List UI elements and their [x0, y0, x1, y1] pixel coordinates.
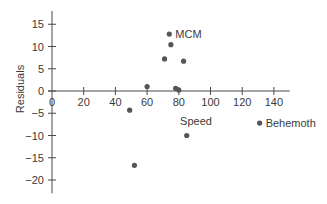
data-points: MCMBehemoth [127, 28, 316, 168]
x-tick-label: 80 [173, 96, 185, 108]
data-point [181, 59, 186, 64]
axes: 151050−5−10−15−20020406080100120140 [25, 11, 289, 193]
point-annotation-mcm: MCM [175, 28, 201, 40]
x-tick-label: 100 [201, 96, 219, 108]
data-point [176, 88, 181, 93]
scatter-plot: 151050−5−10−15−20020406080100120140 MCMB… [0, 0, 327, 204]
y-tick-label: 5 [38, 63, 44, 75]
y-tick-label: 10 [32, 41, 44, 53]
data-point [184, 133, 189, 138]
data-point [167, 31, 172, 36]
y-tick-label: −15 [25, 152, 44, 164]
y-tick-label: 0 [38, 85, 44, 97]
x-tick-label: 0 [49, 96, 55, 108]
x-tick-label: 140 [265, 96, 283, 108]
y-tick-label: −5 [31, 107, 44, 119]
y-tick-label: 15 [32, 18, 44, 30]
data-point [162, 56, 167, 61]
data-point [145, 84, 150, 89]
data-point [127, 108, 132, 113]
data-point [257, 120, 262, 125]
y-tick-label: −10 [25, 130, 44, 142]
x-tick-label: 20 [78, 96, 90, 108]
x-tick-label: 40 [109, 96, 121, 108]
data-point [168, 42, 173, 47]
x-tick-label: 120 [233, 96, 251, 108]
x-axis-title: Speed [180, 115, 212, 127]
y-tick-label: −20 [25, 174, 44, 186]
point-annotation-behemoth: Behemoth [266, 117, 316, 129]
data-point [132, 163, 137, 168]
y-axis-title: Residuals [14, 64, 26, 113]
x-tick-label: 60 [141, 96, 153, 108]
